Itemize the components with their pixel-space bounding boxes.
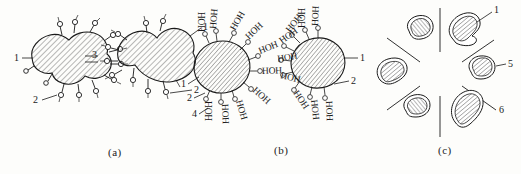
water-label-b9: HOH: [220, 104, 231, 125]
water-label-b18: HOH: [309, 99, 321, 120]
dispersed-particle-top-left: [407, 15, 433, 39]
dispersed-particle-middle-right: [469, 56, 495, 79]
water-label-b3: HOH: [228, 9, 247, 32]
particle-body-left-a: [32, 32, 112, 84]
dispersed-particle-bottom-right: [451, 90, 483, 127]
panel-c: 1 5 6: [377, 4, 513, 137]
water-label-b6: HOH: [262, 65, 283, 76]
particle-body-right-a: [118, 28, 196, 82]
water-label-b12: HOH: [310, 5, 321, 26]
panel-caption-c: (c): [438, 144, 452, 156]
callout-2-left-a: 2: [33, 94, 57, 105]
callout-label-1b: 1: [181, 78, 186, 89]
callout-label-3a: 3: [92, 49, 97, 60]
callout-label-2a-right: 2: [194, 84, 199, 95]
callout-label-2b-right: 2: [351, 75, 356, 86]
panel-a: 1 2 1 2: [14, 14, 208, 105]
water-label-b2: HOH: [208, 8, 219, 29]
callout-6-c: 6: [499, 104, 504, 115]
callout-1-c: 1: [477, 4, 499, 22]
water-label-b1: HOH: [197, 12, 207, 32]
water-label-b10: HOH: [203, 101, 213, 121]
callout-1-right-b: 1: [344, 52, 365, 63]
callout-label-1b-right: 1: [360, 52, 365, 63]
callout-label-1c: 1: [494, 4, 499, 15]
panel-b: HOH HOH HOH HOH HOH HOH HOH HOH HOH HOH …: [181, 5, 365, 124]
water-label-b17: HOH: [291, 89, 311, 111]
callout-1-left-a: 1: [14, 52, 33, 63]
dispersed-particle-bottom-left: [404, 95, 430, 117]
callout-label-1a: 1: [14, 52, 19, 63]
water-label-b19: HOH: [324, 101, 335, 122]
water-label-b7: HOH: [251, 85, 273, 106]
dispersed-particle-top-right: [449, 13, 480, 46]
water-label-b8: HOH: [234, 99, 249, 121]
figure-container: 1 2 1 2: [0, 0, 521, 174]
panel-caption-a: (a): [108, 146, 122, 158]
callout-label-2a: 2: [33, 94, 38, 105]
panel-caption-b: (b): [274, 144, 288, 156]
callout-label-4b: 4: [192, 108, 197, 119]
callout-label-2b: 2: [187, 92, 192, 103]
water-label-b4: HOH: [243, 20, 265, 41]
callout-label-6c: 6: [499, 104, 504, 115]
callout-label-5c: 5: [508, 58, 513, 69]
callout-5-c: 5: [496, 58, 513, 69]
dispersed-particle-middle-left: [377, 58, 407, 84]
